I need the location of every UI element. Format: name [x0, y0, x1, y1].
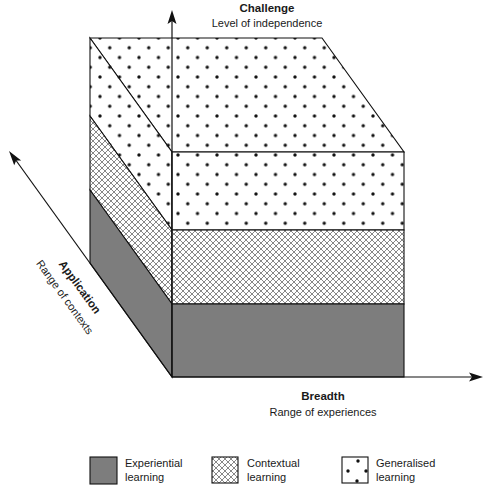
block-front-contextual-layer	[172, 230, 404, 304]
legend-item-contextual: Contextual learning	[212, 457, 300, 483]
block-front-experiential-layer	[172, 304, 404, 377]
legend-swatch-crosshatch	[212, 457, 238, 483]
legend-swatch-dots	[342, 457, 368, 483]
learning-dimensions-diagram: Challenge Level of independence Breadth …	[0, 0, 483, 496]
legend-item-generalised: Generalised learning	[342, 457, 435, 483]
legend-label-line2: learning	[125, 471, 164, 483]
legend: Experiential learning Contextual learnin…	[90, 457, 435, 484]
challenge-axis-subtitle: Level of independence	[212, 17, 323, 29]
challenge-axis-title: Challenge	[240, 2, 295, 14]
legend-label-line1: Generalised	[376, 457, 435, 469]
legend-label-line2: learning	[376, 471, 415, 483]
arrow-up-left-icon	[9, 151, 21, 165]
legend-item-experiential: Experiential learning	[90, 457, 182, 484]
breadth-axis-title: Breadth	[301, 390, 344, 402]
diagram-canvas: Challenge Level of independence Breadth …	[0, 0, 483, 496]
legend-label-line1: Contextual	[247, 457, 300, 469]
legend-swatch-solid-gray	[90, 457, 117, 484]
breadth-axis-subtitle: Range of experiences	[269, 406, 377, 418]
block-front-generalised-layer	[172, 152, 404, 230]
legend-label-line1: Experiential	[125, 457, 182, 469]
legend-label-line2: learning	[247, 471, 286, 483]
